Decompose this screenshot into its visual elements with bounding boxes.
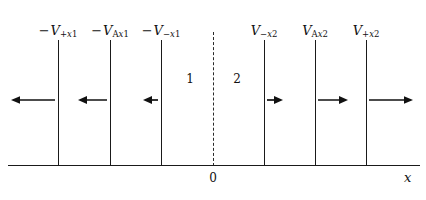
- interface-dashed-line: [213, 32, 214, 166]
- barrier-label-plus-x2: V+x2: [353, 24, 380, 39]
- v-symbol: V: [353, 23, 362, 38]
- barrier-label-A-x1: −VAx1: [91, 24, 129, 39]
- subscript: Ax1: [112, 29, 128, 39]
- arrow-left-1: [11, 95, 55, 105]
- minus-sign: −: [142, 23, 153, 38]
- subscript: +x2: [362, 29, 379, 39]
- v-symbol: V: [51, 23, 60, 38]
- barrier-line-minus-x1: [161, 40, 162, 166]
- subscript: −x1: [163, 29, 180, 39]
- x-axis-label: x: [404, 171, 411, 184]
- v-symbol: V: [302, 23, 311, 38]
- arrow-left-2: [78, 95, 107, 105]
- barrier-line-A-x1: [110, 40, 111, 166]
- barrier-line-A-x2: [315, 40, 316, 166]
- barrier-label-minus-x1: −V−x1: [142, 24, 181, 39]
- subscript: −x2: [260, 29, 277, 39]
- barrier-label-A-x2: VAx2: [302, 24, 328, 39]
- v-symbol: V: [103, 23, 112, 38]
- potential-diagram-figure: −V+x1 −VAx1 −V−x1 V−x2 VAx2 V+x2 1 2: [0, 0, 426, 200]
- subscript: +x1: [60, 29, 77, 39]
- minus-sign: −: [39, 23, 50, 38]
- barrier-line-plus-x2: [366, 40, 367, 166]
- arrow-right-3: [369, 95, 413, 105]
- barrier-line-minus-x2: [264, 40, 265, 166]
- minus-sign: −: [91, 23, 102, 38]
- barrier-label-minus-x2: V−x2: [251, 24, 278, 39]
- v-symbol: V: [251, 23, 260, 38]
- v-symbol: V: [154, 23, 163, 38]
- barrier-label-plus-x1: −V+x1: [39, 24, 78, 39]
- region-label-1: 1: [186, 73, 194, 85]
- arrow-left-3: [143, 95, 158, 105]
- subscript: Ax2: [312, 29, 328, 39]
- arrow-right-1: [267, 95, 283, 105]
- arrow-right-2: [318, 95, 348, 105]
- barrier-line-plus-x1: [58, 40, 59, 166]
- origin-label: 0: [209, 172, 217, 184]
- x-axis-line: [8, 165, 420, 166]
- region-label-2: 2: [233, 73, 241, 85]
